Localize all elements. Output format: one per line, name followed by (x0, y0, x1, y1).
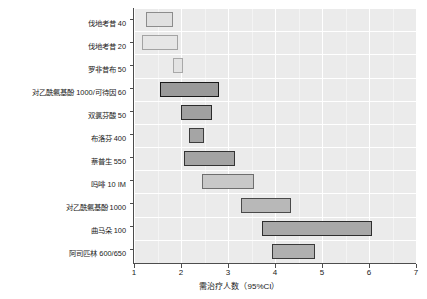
ci-bar (184, 151, 235, 166)
ci-bar (241, 198, 290, 213)
y-axis-label-9: 曲马朵 100 (0, 227, 129, 234)
x-tick-label-6: 6 (359, 269, 379, 277)
ci-bar (272, 244, 315, 259)
ci-bar (146, 12, 173, 27)
x-tick-label-4: 4 (265, 269, 285, 277)
ci-bar (160, 82, 219, 97)
ci-bar (181, 105, 213, 120)
gridline-horizontal-7 (134, 170, 416, 171)
y-axis-label-8: 对乙酰氨基酚 1000 (0, 204, 129, 211)
y-axis-label-0: 伐地考昔 40 (0, 20, 129, 27)
gridline-horizontal-5 (134, 124, 416, 125)
x-tick-label-3: 3 (218, 269, 238, 277)
y-axis-label-4: 双氯芬酸 50 (0, 112, 129, 119)
chart-root: 伐地考昔 40 伐地考昔 20 罗非昔布 50 对乙酰氨基酚 1000/可待因 … (0, 0, 427, 299)
x-axis-title-text: 需治疗人数（95%CI） (199, 283, 279, 291)
gridline-horizontal-10 (134, 240, 416, 241)
y-axis-label-7: 吗啡 10 IM (0, 181, 129, 188)
x-tick-label-1: 1 (124, 269, 144, 277)
ci-bar (142, 35, 177, 50)
gridline-vertical-minor-2.5 (205, 8, 206, 263)
y-axis-label-3: 对乙酰氨基酚 1000/可待因 60 (0, 89, 129, 96)
x-tick-label-5: 5 (312, 269, 332, 277)
gridline-vertical-3 (228, 8, 229, 263)
gridline-vertical-1 (134, 8, 135, 263)
gridline-horizontal-9 (134, 217, 416, 218)
gridline-vertical-2 (181, 8, 182, 263)
ci-bar (173, 58, 184, 73)
y-axis-category-labels: 伐地考昔 40 伐地考昔 20 罗非昔布 50 对乙酰氨基酚 1000/可待因 … (0, 8, 129, 263)
gridline-horizontal-0 (134, 8, 416, 9)
y-axis-label-5: 布洛芬 400 (0, 135, 129, 142)
ci-bar (202, 174, 254, 189)
ci-bar (262, 221, 372, 236)
y-axis-label-2: 罗非昔布 50 (0, 66, 129, 73)
gridline-horizontal-2 (134, 54, 416, 55)
y-axis-label-10: 阿司匹林 600/650 (0, 250, 129, 257)
y-axis-label-6: 萘普生 550 (0, 158, 129, 165)
x-tick-label-7: 7 (406, 269, 426, 277)
gridline-horizontal-4 (134, 101, 416, 102)
y-axis-line (133, 8, 134, 264)
gridline-horizontal-1 (134, 31, 416, 32)
gridline-horizontal-8 (134, 193, 416, 194)
x-tick-label-2: 2 (171, 269, 191, 277)
x-axis-title: 需治疗人数（95%CI） (0, 283, 427, 291)
plot-panel (134, 8, 416, 263)
y-axis-label-1: 伐地考昔 20 (0, 43, 129, 50)
gridline-vertical-minor-3.5 (252, 8, 253, 263)
gridline-vertical-minor-6.5 (393, 8, 394, 263)
ci-bar (189, 128, 205, 143)
gridline-horizontal-6 (134, 147, 416, 148)
gridline-horizontal-3 (134, 78, 416, 79)
